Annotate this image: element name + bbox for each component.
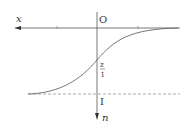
vertical-axis-arrow-icon xyxy=(95,113,99,120)
vertical-axis-label: n xyxy=(102,112,108,123)
midpoint-label-bottom: 1 xyxy=(101,71,105,79)
asymptote-label: I xyxy=(100,96,104,107)
x-axis-arrow-icon xyxy=(14,26,21,30)
x-axis-label: x xyxy=(16,13,22,24)
origin-label: O xyxy=(99,14,107,25)
midpoint-label-top: z xyxy=(100,61,104,69)
diagram-canvas: x O z 1 I n xyxy=(0,0,188,130)
